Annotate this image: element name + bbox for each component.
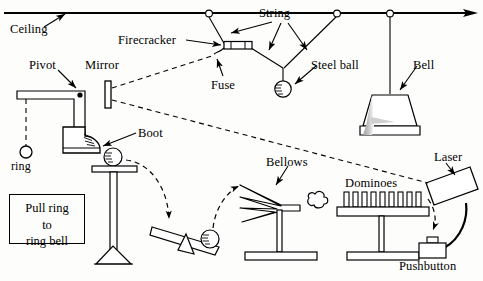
air-puff-icon <box>308 191 328 207</box>
instruction-line-1: Pull ring <box>10 200 84 217</box>
string-network <box>209 17 390 94</box>
leader-fuse <box>217 59 223 76</box>
domino-6 <box>389 192 394 207</box>
label-bell: Bell <box>413 58 434 72</box>
label-boot: Boot <box>138 126 163 140</box>
leader-pivot <box>58 70 76 88</box>
mirror-glass <box>105 81 111 108</box>
boot-assembly <box>63 127 100 153</box>
label-firecracker: Firecracker <box>118 33 176 47</box>
mirror-assembly <box>105 81 111 108</box>
steel-ball-body <box>275 81 291 97</box>
leader-firecracker <box>186 40 221 45</box>
pivot-pin <box>77 92 82 97</box>
figure-canvas: Ceiling Firecracker String Steel ball Be… <box>0 0 483 281</box>
firecracker-assembly <box>214 42 252 55</box>
pedestal-column <box>110 172 117 250</box>
leader-string-2 <box>269 23 281 50</box>
label-pivot: Pivot <box>29 58 56 72</box>
pushbutton-housing[interactable] <box>419 243 446 258</box>
beam-mirror-to-fuse <box>112 55 215 88</box>
dominoes-table-top <box>337 207 429 216</box>
bellows-base <box>245 252 317 260</box>
laser-body <box>426 167 478 205</box>
leader-boot <box>103 133 136 146</box>
ceiling-anchor-ring-3 <box>387 10 394 17</box>
bellows-column <box>277 210 282 252</box>
label-string: String <box>259 6 290 20</box>
seesaw-ball <box>201 230 219 248</box>
label-ceiling: Ceiling <box>10 22 48 36</box>
ceiling-anchor-ring-1 <box>206 10 213 17</box>
string-firecracker-to-ball-junction <box>251 48 283 68</box>
label-dominoes: Dominoes <box>345 176 397 190</box>
seesaw-assembly <box>150 227 219 255</box>
label-mirror: Mirror <box>85 58 119 72</box>
laser-power-cable <box>444 203 466 248</box>
label-steel-ball: Steel ball <box>311 58 359 72</box>
pedestal-ball <box>104 148 122 166</box>
bellows-body <box>240 185 300 222</box>
bellows-assembly <box>240 185 328 260</box>
domino-tiles <box>344 192 421 207</box>
label-laser: Laser <box>434 150 462 164</box>
steel-ball <box>275 81 291 97</box>
laser-assembly <box>426 167 478 248</box>
label-bellows: Bellows <box>266 155 308 169</box>
firecracker-body <box>224 42 252 50</box>
dominoes-assembly <box>337 192 429 260</box>
pedestal-base <box>96 246 131 264</box>
leader-string-3 <box>288 23 307 50</box>
domino-1 <box>344 192 349 207</box>
bell-assembly <box>360 95 420 135</box>
label-pushbutton: Pushbutton <box>399 259 456 273</box>
domino-2 <box>353 192 358 207</box>
pull-ring[interactable] <box>20 146 32 158</box>
instruction-line-3: ring bell <box>10 233 84 250</box>
instruction-placard: Pull ring to ring bell <box>9 194 85 244</box>
instruction-line-2: to <box>10 217 84 234</box>
pushbutton-cap[interactable] <box>427 237 438 243</box>
domino-7 <box>398 192 403 207</box>
domino-9 <box>416 192 421 207</box>
string-anchor1-to-firecracker <box>209 17 225 45</box>
boot-body <box>63 127 100 153</box>
ceiling-assembly <box>4 9 478 17</box>
dominoes-table-column <box>379 216 384 252</box>
leader-string-1 <box>231 22 272 33</box>
pedestal-top-plate <box>92 166 137 172</box>
leader-laser <box>446 163 455 175</box>
ceiling-anchor-ring-2 <box>334 10 341 17</box>
arc-ball2-to-bellows <box>213 186 239 228</box>
domino-8 <box>407 192 412 207</box>
domino-4 <box>371 192 376 207</box>
pedestal-assembly <box>92 148 137 264</box>
pushbutton-assembly <box>419 237 446 258</box>
domino-5 <box>380 192 385 207</box>
label-ring: ring <box>11 160 31 174</box>
domino-3 <box>362 192 367 207</box>
fuse-wick <box>214 48 224 54</box>
label-fuse: Fuse <box>211 78 235 92</box>
